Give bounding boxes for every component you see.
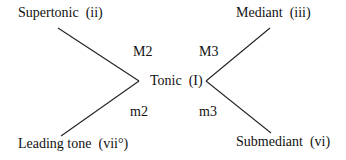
- line-tonic-supertonic: [58, 28, 139, 81]
- interval-label-supertonic: M2: [133, 44, 152, 60]
- node-mediant: Mediant (iii): [236, 5, 311, 21]
- node-tonic: Tonic (I): [150, 73, 203, 89]
- interval-label-mediant: M3: [199, 44, 218, 60]
- node-leading-tone: Leading tone (vii°): [18, 136, 128, 152]
- line-tonic-leading-tone: [61, 81, 139, 136]
- chord-relationship-diagram: Supertonic (ii) Mediant (iii) Tonic (I) …: [0, 0, 346, 160]
- interval-label-leading-tone: m2: [130, 104, 148, 120]
- interval-label-submediant: m3: [199, 104, 217, 120]
- node-supertonic: Supertonic (ii): [18, 5, 103, 21]
- node-submediant: Submediant (vi): [236, 134, 330, 150]
